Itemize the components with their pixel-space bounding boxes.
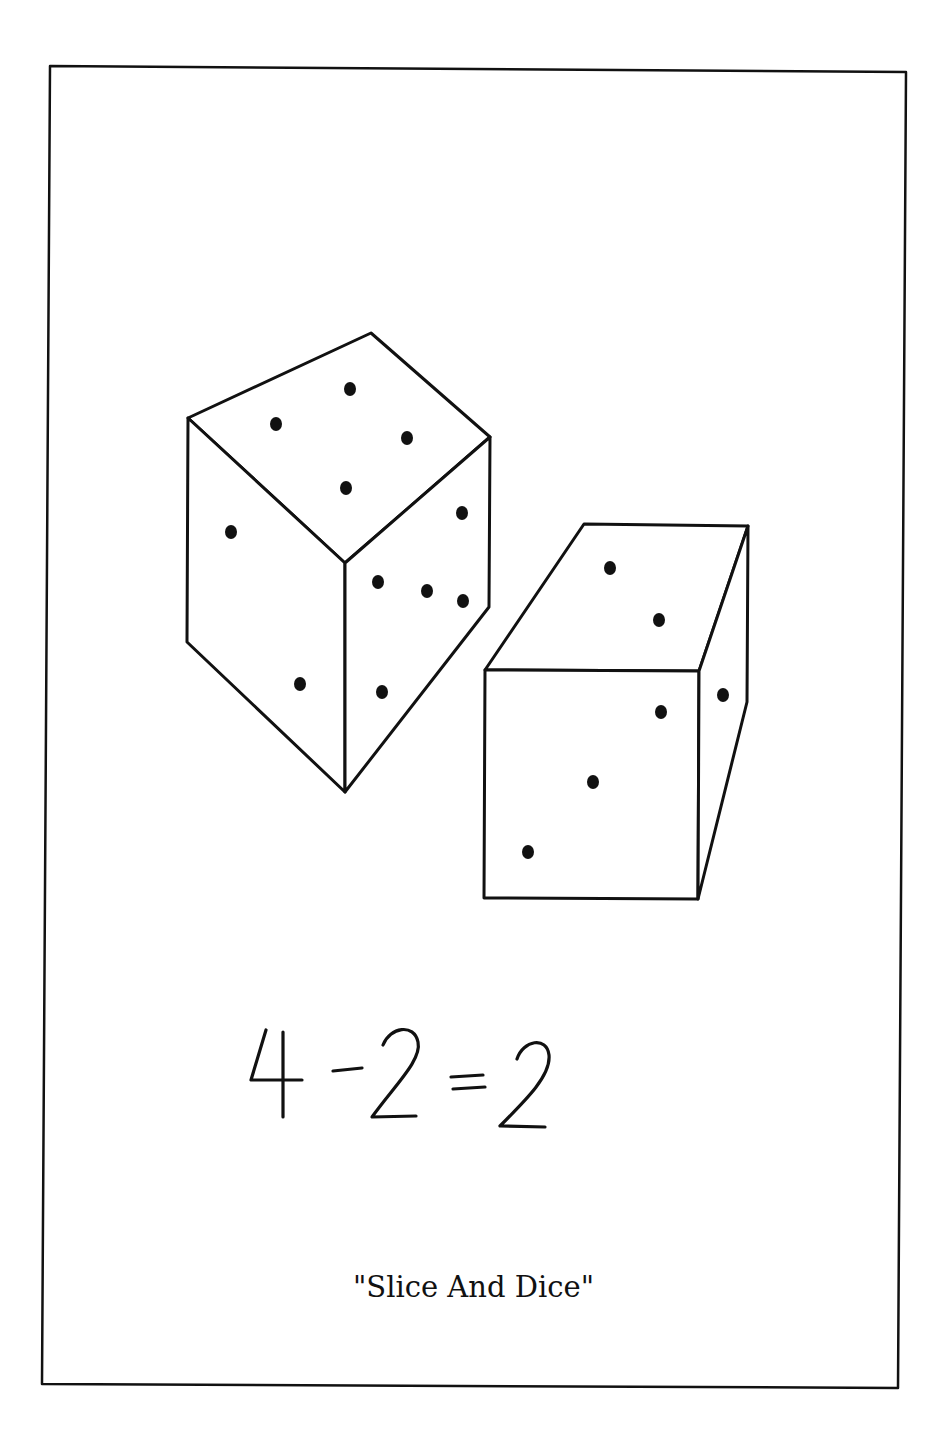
pip-dot <box>717 688 729 702</box>
pip-dot <box>522 845 534 859</box>
pip-dot <box>421 584 433 598</box>
pip-dot <box>456 506 468 520</box>
pip-dot <box>376 685 388 699</box>
pip-dot <box>270 417 282 431</box>
pip-dot <box>401 431 413 445</box>
pip-dot <box>655 705 667 719</box>
pip-dot <box>340 481 352 495</box>
page-border <box>42 66 906 1388</box>
pip-dot <box>294 677 306 691</box>
pip-dot <box>344 382 356 396</box>
pip-dot <box>604 561 616 575</box>
pip-dot <box>225 525 237 539</box>
caption-title: "Slice And Dice" <box>0 1270 947 1304</box>
page-canvas <box>0 0 947 1440</box>
pip-dot <box>372 575 384 589</box>
page-frame <box>42 66 906 1388</box>
pip-dot <box>457 594 469 608</box>
pip-dot <box>587 775 599 789</box>
pip-dot <box>653 613 665 627</box>
